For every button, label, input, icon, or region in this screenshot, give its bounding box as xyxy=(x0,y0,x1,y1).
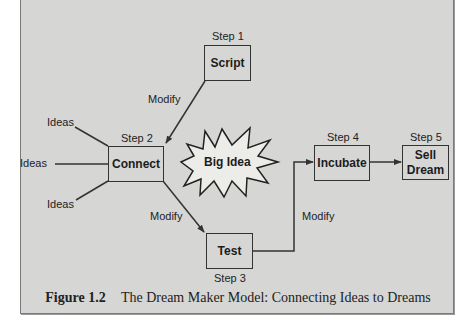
node-connect-label: Connect xyxy=(112,157,160,172)
node-incubate: Incubate xyxy=(314,145,370,181)
arrow-script-to-connect xyxy=(166,81,205,143)
modify-label-test-incubate: Modify xyxy=(302,210,334,222)
node-incubate-label: Incubate xyxy=(317,156,366,171)
step-3-label: Step 3 xyxy=(214,272,246,284)
node-connect: Connect xyxy=(108,146,164,182)
figure-caption-text: The Dream Maker Model: Connecting Ideas … xyxy=(121,290,431,305)
modify-label-script-connect: Modify xyxy=(148,93,180,105)
node-sell-dream-label-line1: Sell xyxy=(415,148,436,163)
step-5-label: Step 5 xyxy=(410,131,442,143)
node-script-label: Script xyxy=(210,56,244,71)
step-4-label: Step 4 xyxy=(327,131,359,143)
figure-caption: Figure 1.2 The Dream Maker Model: Connec… xyxy=(0,290,476,306)
arrow-connect-to-test xyxy=(163,181,204,232)
node-sell-dream-label-line2: Dream xyxy=(407,163,444,178)
step-2-label: Step 2 xyxy=(121,132,153,144)
node-test: Test xyxy=(206,233,253,269)
node-sell-dream: Sell Dream xyxy=(402,145,449,180)
ideas-label-bottom: Ideas xyxy=(47,198,74,210)
figure-number: Figure 1.2 xyxy=(45,290,105,305)
ideas-line-top xyxy=(75,127,108,146)
node-script: Script xyxy=(204,45,251,81)
big-idea-label: Big Idea xyxy=(204,155,251,169)
ideas-label-middle: Ideas xyxy=(20,157,47,169)
ideas-line-bottom xyxy=(76,181,108,200)
node-test-label: Test xyxy=(218,244,242,259)
ideas-label-top: Ideas xyxy=(47,116,74,128)
modify-label-connect-test: Modify xyxy=(150,210,182,222)
step-1-label: Step 1 xyxy=(212,30,244,42)
